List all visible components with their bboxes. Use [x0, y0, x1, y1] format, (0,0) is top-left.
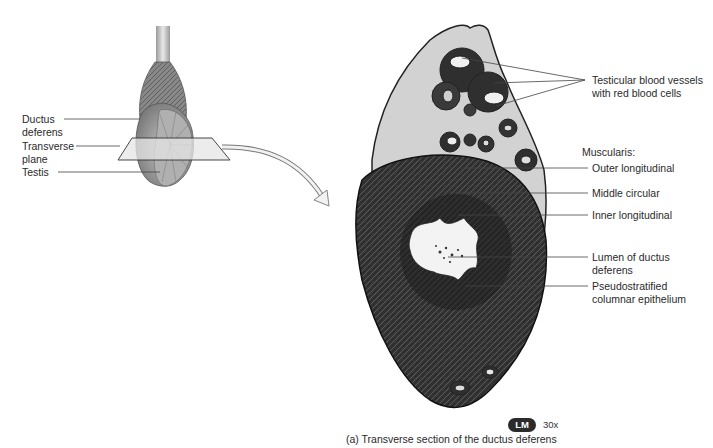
label-text: deferens [592, 264, 670, 277]
curved-arrow-icon [222, 147, 329, 206]
label-testicular-blood-vessels: Testicular blood vessels with red blood … [592, 74, 703, 99]
testis-illustration [118, 26, 230, 186]
label-text: plane [22, 153, 74, 166]
label-text: with red blood cells [592, 87, 703, 100]
label-text: deferens [22, 126, 63, 139]
label-text: columnar epithelium [592, 293, 686, 306]
lm-badge: LM [508, 418, 536, 432]
label-pseudostratified-epithelium: Pseudostratified columnar epithelium [592, 280, 686, 305]
label-testis: Testis [22, 166, 49, 179]
label-outer-longitudinal: Outer longitudinal [592, 162, 674, 175]
label-muscularis-header: Muscularis: [582, 146, 635, 159]
figure-artwork [0, 0, 713, 448]
label-text: Ductus [22, 113, 63, 126]
figure-caption: (a) Transverse section of the ductus def… [346, 433, 557, 445]
magnification-label: 30x [543, 419, 558, 430]
label-middle-circular: Middle circular [592, 187, 660, 200]
label-text: Transverse [22, 140, 74, 153]
label-inner-longitudinal: Inner longitudinal [592, 209, 672, 222]
label-text: Testis [22, 166, 49, 179]
label-text: Pseudostratified [592, 280, 686, 293]
label-text: Lumen of ductus [592, 251, 670, 264]
label-transverse-plane: Transverse plane [22, 140, 74, 165]
label-ductus-deferens: Ductus deferens [22, 113, 63, 138]
label-lumen: Lumen of ductus deferens [592, 251, 670, 276]
label-text: Testicular blood vessels [592, 74, 703, 87]
